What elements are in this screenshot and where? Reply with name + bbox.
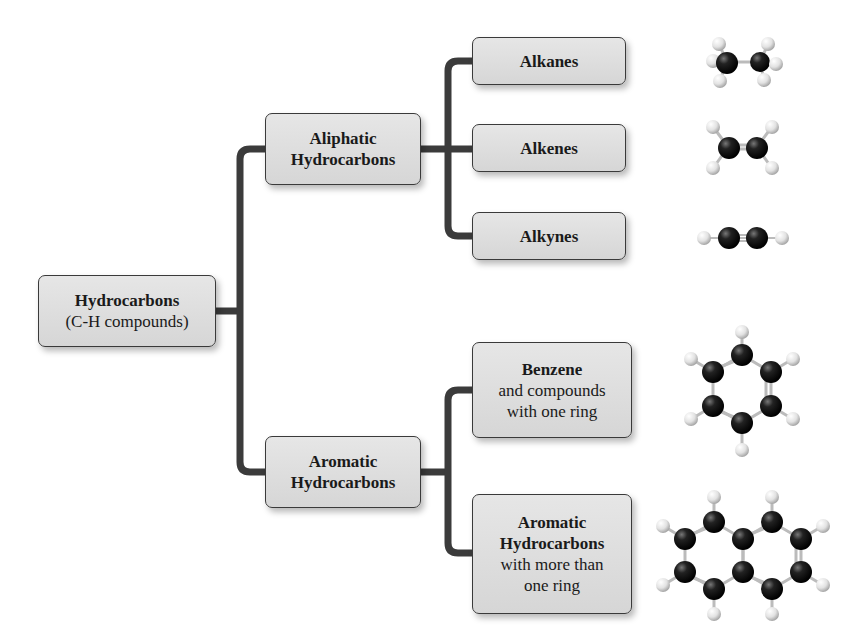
benzene-model-icon	[684, 325, 800, 457]
naphthalene-model-icon	[656, 490, 830, 621]
hydrocarbon-classification-diagram: Hydrocarbons (C-H compounds) Aliphatic H…	[0, 0, 864, 635]
molecule-models	[0, 0, 864, 635]
ethyne-model-icon	[697, 227, 789, 249]
ethene-model-icon	[706, 120, 779, 175]
ethane-model-icon	[706, 37, 783, 88]
